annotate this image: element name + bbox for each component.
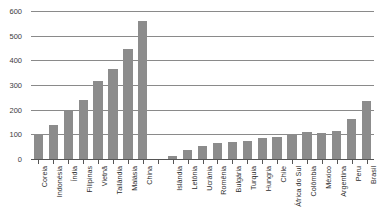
x-axis-tick-label: Índia [71,166,79,182]
x-axis-tick [128,160,129,164]
bar [272,137,281,160]
bar [302,132,311,160]
x-axis-tick [217,160,218,164]
bar-slot [93,12,102,160]
x-axis-tick [68,160,69,164]
bar-slot [49,12,58,160]
x-axis-tick [337,160,338,164]
bar-slot [183,12,192,160]
x-axis-tick [352,160,353,164]
bar [287,134,296,160]
x-axis-tick-label: Turquia [250,166,258,190]
bar [123,49,132,160]
x-axis-tick-label: Brasil [370,166,378,184]
x-axis-tick [158,160,159,164]
bar-slot [168,12,177,160]
bar-slot [108,12,117,160]
bar [243,141,252,160]
bar-slot [272,12,281,160]
bar-slot [302,12,311,160]
x-axis-tick [83,160,84,164]
x-axis-tick [113,160,114,164]
x-axis-tick [188,160,189,164]
bar-slot [287,12,296,160]
y-axis-tick-label: 100 [0,131,22,139]
x-axis-tick-label: Tailândia [116,166,124,194]
x-axis-tick-label: Vietnã [101,166,109,186]
y-axis-tick-label: 300 [0,82,22,90]
y-axis-tick-label: 600 [0,8,22,16]
bar-series [31,12,374,160]
bar-slot [123,12,132,160]
plot-area: 0100200300400500600 [31,12,374,160]
bar [198,146,207,160]
x-axis-tick-label: Filipinas [86,166,94,192]
x-axis-tick-label: Letônia [191,166,199,190]
x-axis-tick-label: Romênia [220,166,228,195]
x-axis-tick-label: Argentina [340,166,348,197]
y-axis-tick-label: 0 [0,156,22,164]
bar-slot [213,12,222,160]
x-axis-tick [262,160,263,164]
x-axis-tick-label: Ucrânia [206,166,214,191]
x-axis-tick [322,160,323,164]
bar-slot [228,12,237,160]
x-axis-tick [203,160,204,164]
x-axis-tick-label: Indonésia [56,166,64,197]
bar [332,131,341,160]
bar-slot [198,12,207,160]
x-axis-tick-label: México [325,166,333,189]
bar [93,81,102,160]
x-axis-tick-label: Coreia [41,166,49,187]
x-axis-tick [292,160,293,164]
bar-slot [332,12,341,160]
x-axis-tick [143,160,144,164]
bar-slot [362,12,371,160]
bar [228,142,237,160]
x-axis-tick-label: Islândia [176,166,184,191]
bar-slot [79,12,88,160]
x-axis-tick-label: Colômbia [310,166,318,196]
bar [108,69,117,160]
x-axis-tick-label: Malásia [131,166,139,191]
bar [362,101,371,160]
y-axis-tick-label: 500 [0,33,22,41]
x-axis-tick [232,160,233,164]
bar [317,133,326,160]
bar [213,143,222,160]
bar-slot [64,12,73,160]
x-axis-tick [277,160,278,164]
bar-slot [34,12,43,160]
bar [79,100,88,160]
bar [64,111,73,160]
x-axis-tick-label: Bulgária [235,166,243,192]
x-axis-tick [307,160,308,164]
bar-slot [138,12,147,160]
x-axis-tick [38,160,39,164]
x-axis-tick [247,160,248,164]
x-axis-tick-label: Hungria [265,166,273,191]
x-axis-tick [98,160,99,164]
bar [347,119,356,160]
bar-slot [243,12,252,160]
x-axis-tick-label: Chile [280,166,288,182]
x-axis-tick-label: África do Sul [295,166,303,207]
bar-slot [317,12,326,160]
bar [258,138,267,160]
y-axis-tick-label: 400 [0,57,22,65]
x-axis-tick [53,160,54,164]
bar-slot [258,12,267,160]
bar [138,21,147,160]
x-axis-tick [173,160,174,164]
bar [49,125,58,160]
x-axis-tick-label: China [146,166,154,185]
x-axis-tick-label: Peru [355,166,363,181]
x-axis-tick [367,160,368,164]
chart-screenshot: 0100200300400500600 CoreiaIndonésiaÍndia… [0,0,378,217]
bar-slot [347,12,356,160]
y-axis-tick-label: 200 [0,107,22,115]
bar [34,134,43,160]
x-axis: CoreiaIndonésiaÍndiaFilipinasVietnãTailâ… [31,160,374,217]
